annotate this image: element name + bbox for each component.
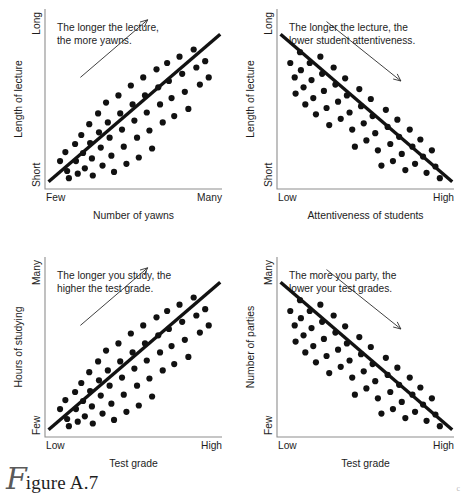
scatter-point	[171, 113, 177, 119]
scatter-point	[99, 163, 105, 169]
scatter-point	[331, 312, 337, 318]
scatter-point	[191, 294, 197, 300]
scatter-point	[298, 315, 304, 321]
scatter-point	[99, 411, 105, 417]
scatter-point	[164, 60, 170, 66]
scatter-point	[378, 163, 384, 169]
scatter-point	[103, 348, 109, 354]
scatter-point	[128, 82, 134, 88]
scatter-point	[308, 325, 314, 331]
y-axis-title: Length of lecture	[245, 60, 256, 138]
scatter-points	[57, 46, 212, 181]
scatter-point	[144, 357, 150, 363]
scatter-point	[78, 132, 84, 138]
scatter-point	[423, 418, 429, 424]
scatter-point	[349, 127, 355, 133]
scatter-point	[298, 67, 304, 73]
plot-area-3: The more you party, thelower your test g…	[245, 257, 454, 469]
scatter-point	[349, 375, 355, 381]
y-axis-top-label: Long	[31, 12, 42, 35]
scatter-points	[57, 294, 212, 429]
scatter-point	[171, 361, 177, 367]
scatter-point	[321, 88, 327, 94]
scatter-point	[153, 314, 159, 320]
scatter-point	[153, 66, 159, 72]
scatter-point	[394, 117, 400, 123]
chart-canvas-0: The longer the lecture,the more yawns.Lo…	[0, 0, 231, 248]
scatter-point	[62, 149, 68, 155]
scatter-point	[105, 119, 111, 125]
scatter-point	[437, 175, 443, 181]
scatter-point	[206, 74, 212, 80]
scatter-point	[193, 64, 199, 70]
scatter-point	[144, 109, 150, 115]
y-axis-top-label: Many	[263, 259, 274, 285]
y-axis-bottom-label: Short	[263, 162, 274, 187]
scatter-point	[368, 344, 374, 350]
scatter-point	[123, 409, 129, 415]
scatter-point	[206, 322, 212, 328]
scatter-point	[140, 322, 146, 328]
scatter-point	[335, 99, 341, 105]
scatter-point	[302, 349, 308, 355]
scatter-point	[89, 403, 95, 409]
x-axis-title: Number of yawns	[93, 210, 174, 221]
y-axis-bottom-label: Few	[263, 415, 274, 435]
scatter-point	[292, 74, 298, 80]
scatter-point	[375, 147, 381, 153]
scatter-point	[107, 135, 113, 141]
scatter-point	[399, 151, 405, 157]
scatter-point	[179, 71, 185, 77]
y-axis-bottom-label: Short	[31, 162, 42, 187]
trend-fit-line	[281, 34, 453, 182]
scatter-point	[98, 393, 104, 399]
scatter-point	[136, 154, 142, 160]
scatter-point	[342, 75, 348, 81]
scatter-point	[134, 135, 140, 141]
scatter-point	[372, 378, 378, 384]
scatter-point	[437, 423, 443, 429]
scatter-point	[179, 319, 185, 325]
scatter-point	[412, 409, 418, 415]
scatter-point	[111, 417, 117, 423]
chart-panel-parties-vs-grade: The more you party, thelower your test g…	[232, 248, 463, 496]
scatter-point	[57, 158, 63, 164]
scatter-point	[387, 141, 393, 147]
scatter-point	[292, 322, 298, 328]
scatter-point	[103, 100, 109, 106]
scatter-point	[57, 406, 63, 412]
chart-canvas-2: The longer you study, thehigher the test…	[0, 248, 231, 496]
scatter-point	[115, 340, 121, 346]
scatter-point	[191, 46, 197, 52]
figure-caption: Figure A.7	[6, 464, 98, 494]
scatter-point	[117, 358, 123, 364]
scatter-point	[185, 106, 191, 112]
x-axis-right-label: High	[433, 440, 454, 451]
scatter-point	[164, 308, 170, 314]
panel-caption-line-2: lower student attentiveness.	[289, 35, 415, 46]
scatter-point	[407, 375, 413, 381]
corner-mark: c	[456, 484, 460, 493]
scatter-point	[352, 144, 358, 150]
scatter-point	[105, 367, 111, 373]
x-axis-title: Attentiveness of students	[307, 210, 423, 221]
scatter-point	[423, 170, 429, 176]
scatter-point	[417, 136, 423, 142]
x-axis-title: Test grade	[341, 458, 390, 469]
scatter-point	[429, 395, 435, 401]
scatter-point	[323, 353, 329, 359]
panel-caption-line-2: higher the test grade.	[57, 283, 153, 294]
scatter-point	[313, 359, 319, 365]
scatter-point	[86, 369, 92, 375]
scatter-point	[361, 368, 367, 374]
scatter-point	[182, 89, 188, 95]
scatter-point	[390, 158, 396, 164]
scatter-point	[412, 161, 418, 167]
scatter-point	[287, 60, 293, 66]
scatter-point	[108, 153, 114, 159]
scatter-point	[310, 343, 316, 349]
x-axis-right-label: Many	[197, 192, 223, 203]
scatter-point	[378, 411, 384, 417]
scatter-point	[107, 383, 113, 389]
scatter-point	[356, 86, 362, 92]
